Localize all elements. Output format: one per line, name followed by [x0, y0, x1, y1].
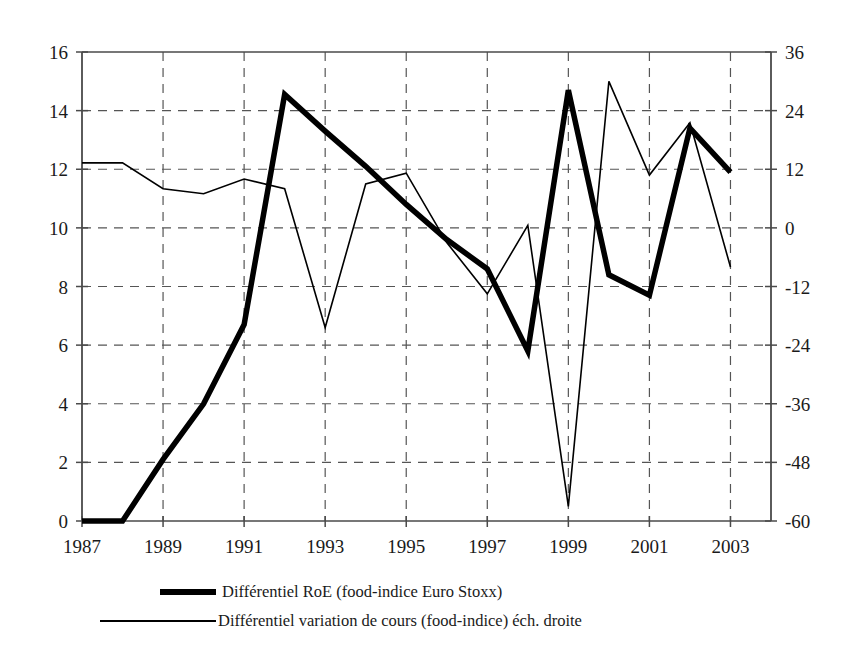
- y-tick-label-right: -24: [785, 335, 811, 356]
- line-chart: 0246810121416-60-48-36-24-12012243619871…: [0, 0, 862, 669]
- y-tick-label-left: 8: [59, 277, 69, 298]
- x-tick-label: 1999: [549, 536, 587, 557]
- y-tick-label-right: -36: [785, 394, 810, 415]
- x-tick-label: 2003: [711, 536, 749, 557]
- y-tick-label-left: 0: [59, 511, 69, 532]
- y-tick-label-left: 12: [49, 159, 68, 180]
- y-tick-label-left: 10: [49, 218, 68, 239]
- y-tick-label-left: 4: [59, 394, 69, 415]
- legend-label: Différentiel RoE (food-indice Euro Stoxx…: [222, 582, 502, 601]
- y-tick-label-right: -12: [785, 277, 810, 298]
- x-tick-label: 1995: [387, 536, 425, 557]
- y-tick-label-left: 2: [59, 452, 69, 473]
- legend-label: Différentiel variation de cours (food-in…: [218, 611, 582, 630]
- x-tick-label: 1997: [468, 536, 506, 557]
- x-tick-label: 1989: [144, 536, 182, 557]
- y-tick-label-right: 12: [785, 159, 804, 180]
- y-tick-label-right: 24: [785, 101, 805, 122]
- x-tick-label: 1991: [225, 536, 263, 557]
- x-tick-label: 2001: [630, 536, 668, 557]
- chart-background: [0, 0, 862, 669]
- y-tick-label-right: 36: [785, 42, 804, 63]
- chart-container: 0246810121416-60-48-36-24-12012243619871…: [0, 0, 862, 669]
- x-tick-label: 1987: [63, 536, 101, 557]
- x-tick-label: 1993: [306, 536, 344, 557]
- y-tick-label-right: 0: [785, 218, 795, 239]
- y-tick-label-left: 16: [49, 42, 68, 63]
- y-tick-label-left: 6: [59, 335, 69, 356]
- y-tick-label-right: -48: [785, 452, 810, 473]
- y-tick-label-left: 14: [49, 101, 69, 122]
- y-tick-label-right: -60: [785, 511, 810, 532]
